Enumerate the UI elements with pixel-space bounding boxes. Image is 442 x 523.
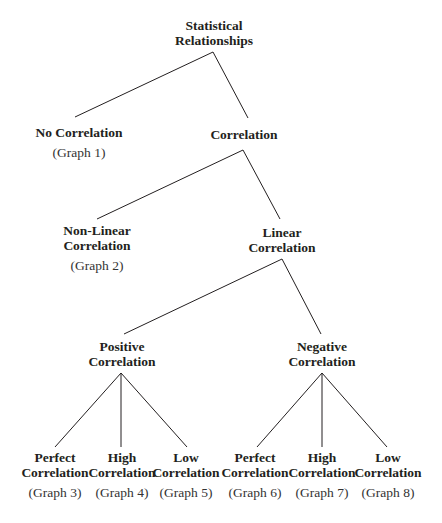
node-label: Negative [288,339,355,354]
node-label: Correlation [288,465,355,480]
node-label: Linear [248,225,315,240]
graph-reference: (Graph 1) [35,145,122,160]
node-label: Relationships [175,33,253,48]
graph-reference: (Graph 8) [354,485,421,500]
node-label: Correlation [221,465,288,480]
node-positive-high-correlation: High Correlation (Graph 4) [88,450,155,500]
graph-reference: (Graph 7) [288,485,355,500]
node-linear-correlation: Linear Correlation [248,225,315,255]
node-label: Correlation [288,354,355,369]
node-label: Correlation [88,354,155,369]
node-label: Positive [88,339,155,354]
edge-positive-to-low [121,373,187,447]
node-label: Correlation [210,127,277,142]
node-statistical-relationships: Statistical Relationships [175,18,253,48]
edge-positive-to-perfect [55,373,121,447]
node-label: No Correlation [35,125,122,140]
edge-correlation-to-non-linear [97,150,243,219]
node-correlation: Correlation [210,127,277,142]
edge-negative-to-low [322,373,387,447]
node-positive-low-correlation: Low Correlation (Graph 5) [152,450,219,500]
node-positive-correlation: Positive Correlation [88,339,155,369]
graph-reference: (Graph 5) [152,485,219,500]
node-label: Correlation [248,240,315,255]
node-label: Correlation [354,465,421,480]
node-negative-perfect-correlation: Perfect Correlation (Graph 6) [221,450,288,500]
graph-reference: (Graph 6) [221,485,288,500]
graph-reference: (Graph 4) [88,485,155,500]
edge-linear-to-positive [124,259,282,334]
node-label: Perfect [221,450,288,465]
node-label: High [88,450,155,465]
node-label: Low [354,450,421,465]
edge-correlation-to-linear [243,150,280,219]
node-label: Correlation [21,465,88,480]
node-no-correlation: No Correlation (Graph 1) [35,125,122,160]
edge-negative-to-perfect [257,373,322,447]
node-label: Correlation [88,465,155,480]
node-label: Correlation [63,238,131,253]
edge-root-to-no-correlation [75,52,213,117]
node-label: Low [152,450,219,465]
node-label: Perfect [21,450,88,465]
edge-root-to-correlation [213,52,248,118]
node-positive-perfect-correlation: Perfect Correlation (Graph 3) [21,450,88,500]
node-label: Correlation [152,465,219,480]
node-negative-low-correlation: Low Correlation (Graph 8) [354,450,421,500]
node-negative-high-correlation: High Correlation (Graph 7) [288,450,355,500]
node-label: High [288,450,355,465]
node-non-linear-correlation: Non-Linear Correlation (Graph 2) [63,223,131,273]
node-negative-correlation: Negative Correlation [288,339,355,369]
node-label: Non-Linear [63,223,131,238]
edge-linear-to-negative [282,259,321,334]
node-label: Statistical [175,18,253,33]
graph-reference: (Graph 3) [21,485,88,500]
graph-reference: (Graph 2) [63,258,131,273]
